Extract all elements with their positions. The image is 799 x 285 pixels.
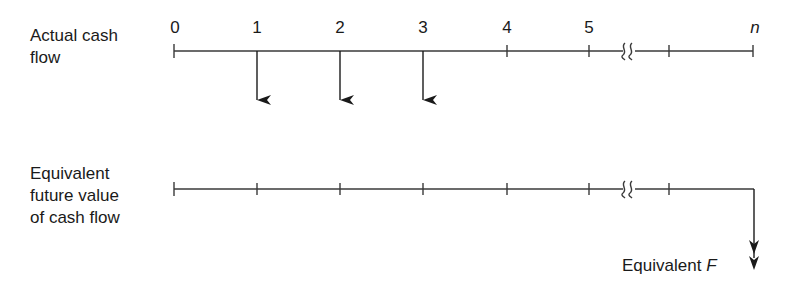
equivalent-future-value-timeline [174,181,754,198]
arrow-down-icon [749,256,759,270]
actual-cash-flow-timeline [174,43,753,60]
cash-flow-diagram-svg [0,0,799,285]
equivalent-f-arrow [749,189,759,270]
cash-flow-arrows [257,51,423,100]
